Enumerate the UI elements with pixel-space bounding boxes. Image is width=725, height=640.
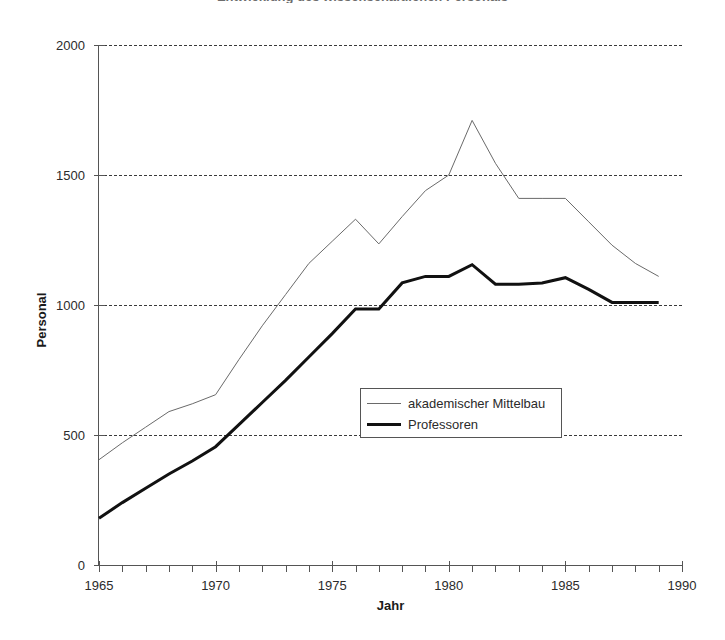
x-axis-tick-minor xyxy=(146,566,147,572)
x-axis-tick-minor xyxy=(589,566,590,572)
y-axis-tick xyxy=(94,305,105,306)
x-axis-title: Jahr xyxy=(99,598,682,613)
x-axis-tick-label: 1990 xyxy=(668,578,697,593)
x-axis-tick-minor xyxy=(356,566,357,572)
x-axis-tick-minor xyxy=(239,566,240,572)
y-axis-tick-label: 2000 xyxy=(56,38,85,53)
y-axis-tick-label: 0 xyxy=(78,558,85,573)
x-axis-tick-major xyxy=(332,561,333,572)
x-axis-tick-minor xyxy=(286,566,287,572)
x-axis-tick-minor xyxy=(122,566,123,572)
x-axis-tick-minor xyxy=(309,566,310,572)
legend-item-label: Professoren xyxy=(408,417,478,432)
legend-item: akademischer Mittelbau xyxy=(367,393,555,414)
y-axis-tick-label: 500 xyxy=(63,428,85,443)
x-axis: 196519701975198019851990 xyxy=(99,565,682,566)
x-axis-tick-label: 1970 xyxy=(201,578,230,593)
x-axis-tick-minor xyxy=(659,566,660,572)
x-axis-tick-label: 1965 xyxy=(85,578,114,593)
y-axis-tick-label: 1000 xyxy=(56,298,85,313)
gridline xyxy=(99,45,682,46)
legend-line-swatch-icon xyxy=(367,420,401,430)
x-axis-tick-major xyxy=(216,561,217,572)
chart-title: Entwicklung des wissenschaftlichen Perso… xyxy=(0,0,725,3)
legend-item-label: akademischer Mittelbau xyxy=(408,396,545,411)
legend-line-swatch-icon xyxy=(367,399,401,409)
plot-area xyxy=(99,45,682,565)
x-axis-tick-label: 1985 xyxy=(551,578,580,593)
x-axis-tick-minor xyxy=(519,566,520,572)
x-axis-tick-major xyxy=(99,561,100,572)
y-axis-tick xyxy=(94,175,105,176)
y-axis-title: Personal xyxy=(34,293,49,348)
x-axis-tick-minor xyxy=(425,566,426,572)
legend-item: Professoren xyxy=(367,414,555,435)
x-axis-tick-label: 1980 xyxy=(434,578,463,593)
x-axis-tick-label: 1975 xyxy=(318,578,347,593)
y-axis-tick xyxy=(94,435,105,436)
x-axis-tick-minor xyxy=(635,566,636,572)
x-axis-tick-minor xyxy=(542,566,543,572)
x-axis-tick-minor xyxy=(402,566,403,572)
y-axis-tick xyxy=(94,45,105,46)
x-axis-tick-minor xyxy=(612,566,613,572)
y-axis-tick-label: 1500 xyxy=(56,168,85,183)
legend: akademischer MittelbauProfessoren xyxy=(360,388,562,438)
chart-container: Entwicklung des wissenschaftlichen Perso… xyxy=(0,0,725,640)
x-axis-tick-major xyxy=(682,561,683,572)
x-axis-tick-minor xyxy=(192,566,193,572)
x-axis-tick-minor xyxy=(262,566,263,572)
gridline xyxy=(99,175,682,176)
x-axis-tick-minor xyxy=(495,566,496,572)
x-axis-tick-minor xyxy=(379,566,380,572)
y-axis: 0500100015002000 xyxy=(98,45,99,566)
x-axis-tick-minor xyxy=(472,566,473,572)
gridline xyxy=(99,305,682,306)
x-axis-tick-minor xyxy=(169,566,170,572)
x-axis-tick-major xyxy=(565,561,566,572)
x-axis-tick-major xyxy=(449,561,450,572)
